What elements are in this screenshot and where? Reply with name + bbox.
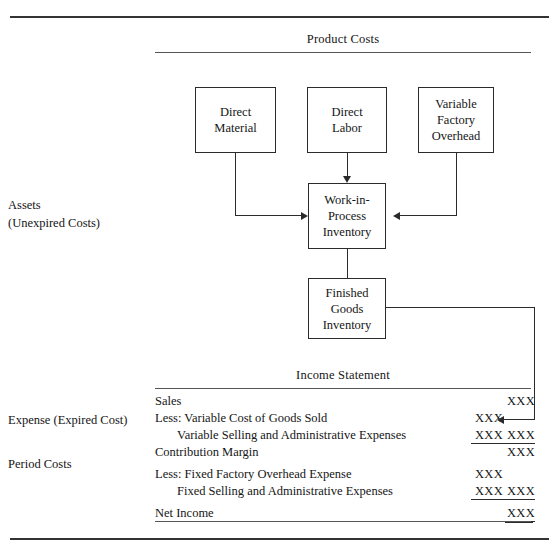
income-statement-closing-rule: [155, 521, 531, 522]
margin-label-expense: Expense (Expired Cost): [8, 411, 127, 429]
income-statement-amount-col2: XXX: [503, 393, 535, 410]
product-costs-underline: [155, 52, 531, 53]
income-statement-row: Fixed Selling and Administrative Expense…: [155, 483, 535, 500]
income-statement-amount-col2: XXX: [503, 427, 535, 444]
node-variable-factory-overhead-label: Variable Factory Overhead: [432, 96, 481, 144]
income-statement-amount-col2: XXX: [503, 444, 535, 461]
income-statement-amount-col2: XXX: [503, 505, 535, 522]
node-work-in-process-label: Work-in- Process Inventory: [323, 192, 372, 240]
income-statement-row: Less: Fixed Factory Overhead ExpenseXXX: [155, 466, 535, 483]
node-variable-factory-overhead: Variable Factory Overhead: [418, 87, 494, 153]
connector-dm-vertical: [235, 153, 236, 216]
connector-fg-right: [386, 307, 535, 308]
income-statement-row: Variable Selling and Administrative Expe…: [155, 427, 535, 444]
bottom-border-rule: [10, 538, 549, 540]
node-work-in-process: Work-in- Process Inventory: [308, 183, 386, 249]
margin-label-assets: Assets (Unexpired Costs): [8, 196, 100, 232]
node-direct-material: Direct Material: [195, 87, 276, 153]
arrow-dm-to-wip-icon: [301, 212, 308, 220]
income-statement-row-label: Less: Variable Cost of Goods Sold: [155, 410, 327, 427]
arrow-vfoh-to-wip-icon: [393, 212, 400, 220]
income-statement-row: Net IncomeXXX: [155, 505, 535, 522]
figure-canvas: Product Costs Direct Material Direct Lab…: [0, 0, 559, 547]
income-statement-row: Contribution MarginXXX: [155, 444, 535, 461]
arrow-dl-to-wip-icon: [343, 176, 351, 183]
income-statement-row-label: Variable Selling and Administrative Expe…: [177, 427, 406, 444]
node-direct-labor: Direct Labor: [307, 87, 387, 153]
income-statement-row-label: Fixed Selling and Administrative Expense…: [177, 483, 393, 500]
income-statement-underline: [155, 388, 531, 389]
connector-vfoh-horizontal: [400, 215, 457, 216]
income-statement-row-label: Sales: [155, 393, 181, 410]
income-statement-heading: Income Statement: [155, 368, 531, 383]
node-finished-goods-label: Finished Goods Inventory: [323, 285, 372, 333]
connector-dm-horizontal: [235, 215, 301, 216]
income-statement-amount-col1: XXX: [471, 466, 503, 483]
income-statement-amount-col1: XXX: [471, 427, 503, 444]
income-statement-row-label: Less: Fixed Factory Overhead Expense: [155, 466, 351, 483]
top-border-rule: [10, 16, 549, 18]
income-statement-row: SalesXXX: [155, 393, 535, 410]
connector-dl-vertical: [347, 153, 348, 177]
connector-fg-down: [534, 307, 535, 420]
connector-vfoh-vertical: [456, 153, 457, 216]
income-statement-amount-col1: XXX: [471, 483, 503, 500]
node-direct-labor-label: Direct Labor: [331, 104, 362, 136]
node-finished-goods: Finished Goods Inventory: [308, 278, 386, 339]
product-costs-heading: Product Costs: [155, 32, 531, 47]
income-statement-row: Less: Variable Cost of Goods SoldXXX: [155, 410, 535, 427]
income-statement-row-label: Contribution Margin: [155, 444, 259, 461]
node-direct-material-label: Direct Material: [214, 104, 256, 136]
arrow-fg-to-cogs-icon: [497, 416, 504, 424]
connector-wip-to-fg: [347, 249, 348, 279]
margin-label-period-costs: Period Costs: [8, 455, 72, 473]
income-statement-row-label: Net Income: [155, 505, 214, 522]
connector-fg-to-cogs: [504, 419, 535, 420]
income-statement-amount-col2: XXX: [503, 483, 535, 500]
